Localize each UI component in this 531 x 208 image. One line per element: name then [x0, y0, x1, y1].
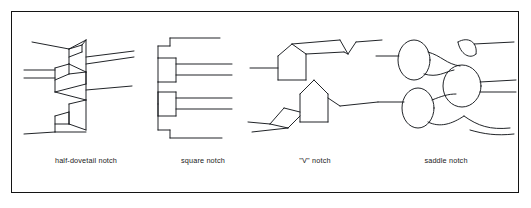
- half-dovetail-notch-drawing: [14, 12, 158, 162]
- saddle-notch-drawing: [374, 12, 518, 162]
- figure-page: half-dovetail notch: [0, 0, 531, 208]
- figure-frame: half-dovetail notch: [11, 11, 519, 193]
- caption-half-dovetail-notch: half-dovetail notch: [14, 156, 158, 165]
- panel-saddle-notch: saddle notch: [374, 12, 518, 194]
- caption-vee-notch: "V" notch: [248, 156, 382, 165]
- vee-notch-drawing: [248, 12, 382, 162]
- panel-half-dovetail-notch: half-dovetail notch: [14, 12, 158, 194]
- panel-vee-notch: "V" notch: [248, 12, 382, 194]
- caption-saddle-notch: saddle notch: [374, 156, 518, 165]
